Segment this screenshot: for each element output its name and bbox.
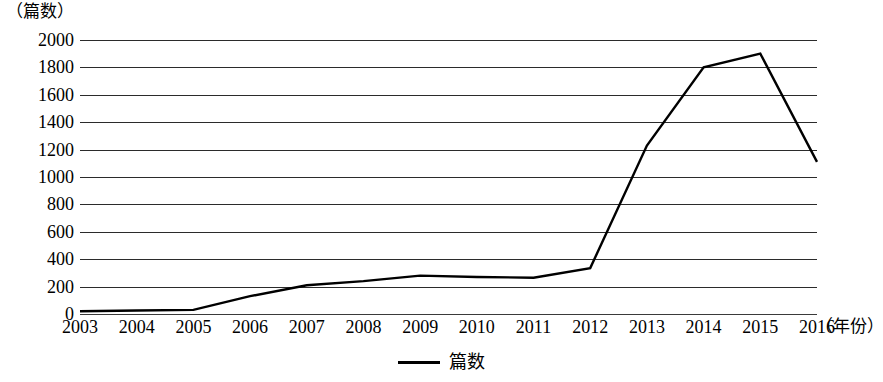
chart-legend: 篇数: [0, 352, 883, 372]
x-tick-label: 2014: [686, 316, 722, 338]
line-chart: （篇数） 20001800160014001200100080060040020…: [0, 0, 883, 382]
y-tick-label: 1800: [0, 58, 74, 76]
y-tick-label: 800: [0, 195, 74, 213]
x-tick-label: 2007: [289, 316, 325, 338]
y-tick-label: 1000: [0, 168, 74, 186]
x-axis-baseline: [80, 314, 817, 315]
y-tick-label: 600: [0, 223, 74, 241]
y-tick-label: 1400: [0, 113, 74, 131]
plot-area: [80, 40, 817, 314]
x-tick-label: 2013: [629, 316, 665, 338]
x-tick-label: 2006: [232, 316, 268, 338]
y-tick-label: 1600: [0, 86, 74, 104]
x-tick-label: 2005: [175, 316, 211, 338]
legend-label: 篇数: [449, 352, 485, 372]
x-tick-label: 2008: [345, 316, 381, 338]
x-tick-label: 2010: [459, 316, 495, 338]
x-tick-label: 2012: [572, 316, 608, 338]
x-tick-label: 2004: [119, 316, 155, 338]
y-tick-label: 400: [0, 250, 74, 268]
y-tick-label: 1200: [0, 141, 74, 159]
x-tick-label: 2009: [402, 316, 438, 338]
data-series-line: [80, 40, 817, 314]
y-tick-label: 200: [0, 278, 74, 296]
x-tick-label: 2003: [62, 316, 98, 338]
y-tick-label: 2000: [0, 31, 74, 49]
x-axis-unit-label: （年份）: [816, 316, 883, 338]
legend-line-marker: [398, 361, 440, 364]
x-tick-label: 2015: [742, 316, 778, 338]
x-axis-tick-labels: 2003200420052006200720082009201020112012…: [0, 316, 883, 346]
x-tick-label: 2011: [516, 316, 551, 338]
